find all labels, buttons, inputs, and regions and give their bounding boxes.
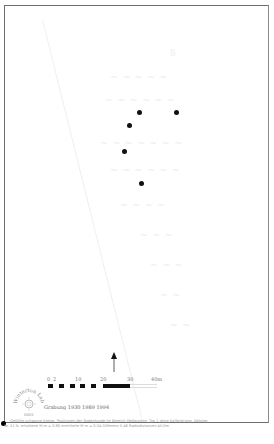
scale-label: 20 — [100, 376, 106, 382]
scale-label: 10 — [75, 376, 81, 382]
scale-bar: 0 2 10 20 30 40m — [47, 376, 167, 392]
stamp-logo-icon: Winterton Lab 0001 — [13, 386, 45, 418]
scale-segment-empty — [130, 384, 157, 388]
map-frame — [4, 5, 269, 423]
scale-label: 30 — [127, 376, 133, 382]
scale-segments — [47, 384, 167, 388]
survey-point — [139, 181, 144, 186]
ghost-glyph: ~ ~ ~ — [150, 260, 183, 270]
survey-point — [122, 149, 127, 154]
survey-point — [137, 110, 142, 115]
north-arrow-icon — [111, 352, 117, 372]
ghost-glyph: ~ ~ — [170, 320, 191, 330]
caption-line-2: Nr. 51 N. erhaltene M m = 0.80 ermittelt… — [4, 424, 270, 429]
ghost-glyph: ~ ~ ~ ~ ~ ~ ~ — [100, 138, 183, 148]
scale-segment — [59, 384, 64, 388]
scale-segment — [91, 384, 96, 388]
scale-segment — [48, 384, 53, 388]
scale-labels: 0 2 10 20 30 40m — [47, 376, 167, 383]
survey-years-label: Grabung 1930 1989 1994 — [44, 404, 109, 410]
scale-label: 0 — [47, 376, 50, 382]
ghost-glyph: ~ ~ ~ — [140, 230, 173, 240]
survey-point — [127, 123, 132, 128]
svg-text:0001: 0001 — [24, 412, 34, 417]
ghost-glyph: ~ ~ ~ ~ ~ ~ — [110, 165, 181, 175]
ghost-glyph: ~ ~ ~ ~ — [120, 200, 166, 210]
scale-label: 2 — [53, 376, 56, 382]
survey-point — [174, 110, 179, 115]
ghost-glyph: ~ ~ — [160, 290, 181, 300]
ghost-glyph: ~ ~ ~ ~ ~ — [110, 72, 168, 82]
ghost-glyph: ~ ~ ~ ~ ~ ~ — [105, 95, 176, 105]
scale-label: 40m — [151, 376, 162, 382]
scale-segment — [70, 384, 75, 388]
caption: Gefüllte schwarze Kreise: Positionen der… — [4, 419, 270, 429]
scale-segment — [103, 384, 130, 388]
ghost-glyph: 8 — [170, 48, 177, 58]
scale-segment — [80, 384, 85, 388]
svg-text:Winterton Lab: Winterton Lab — [13, 387, 45, 404]
